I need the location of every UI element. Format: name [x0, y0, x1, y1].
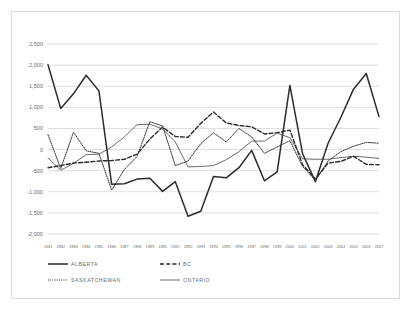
- legend-label-bc[interactable]: BC: [183, 261, 191, 267]
- line-chart[interactable]: 2,5002,0001,5001,0005000-500-1,000-1,500…: [12, 12, 401, 300]
- x-tick-label: 2003: [324, 244, 333, 249]
- chart-legend[interactable]: ALBERTABCSASKATCHEWANONTARIO: [48, 261, 210, 283]
- x-tick-label: 1999: [273, 244, 282, 249]
- y-tick-label: 0: [40, 147, 43, 153]
- x-tick-label: 1994: [209, 244, 218, 249]
- x-tick-label: 2002: [311, 244, 320, 249]
- x-tick-label: 2005: [349, 244, 358, 249]
- x-tick-label: 2001: [298, 244, 307, 249]
- series-line-saskatchewan[interactable]: [48, 122, 379, 190]
- x-tick-label: 1991: [171, 244, 180, 249]
- x-axis-tick-labels: 1981198219831984198519861987198819891990…: [44, 244, 384, 249]
- x-tick-label: 1987: [120, 244, 129, 249]
- x-tick-label: 2007: [375, 244, 384, 249]
- x-tick-label: 2004: [336, 244, 345, 249]
- x-tick-label: 1998: [260, 244, 269, 249]
- y-tick-label: 1,000: [29, 104, 43, 110]
- x-tick-label: 1986: [107, 244, 116, 249]
- x-tick-label: 1985: [95, 244, 104, 249]
- x-tick-label: 2006: [362, 244, 371, 249]
- y-tick-label: -500: [32, 168, 43, 174]
- y-axis-tick-labels: 2,5002,0001,5001,0005000-500-1,000-1,500…: [27, 41, 43, 237]
- x-tick-label: 1982: [56, 244, 65, 249]
- x-tick-label: 1996: [235, 244, 244, 249]
- series-line-bc[interactable]: [48, 112, 379, 179]
- y-tick-label: -1,000: [27, 189, 43, 195]
- series-line-alberta[interactable]: [48, 65, 379, 217]
- x-tick-label: 1997: [247, 244, 256, 249]
- y-tick-label: -2,000: [27, 231, 43, 237]
- x-tick-label: 1992: [184, 244, 193, 249]
- y-tick-label: 2,500: [29, 41, 43, 47]
- x-tick-label: 1989: [146, 244, 155, 249]
- x-tick-label: 1983: [69, 244, 78, 249]
- legend-label-ontario[interactable]: ONTARIO: [183, 277, 210, 283]
- x-tick-label: 1981: [44, 244, 53, 249]
- figure: 2,5002,0001,5001,0005000-500-1,000-1,500…: [0, 0, 411, 310]
- y-tick-label: -1,500: [27, 210, 43, 216]
- legend-label-alberta[interactable]: ALBERTA: [71, 261, 98, 267]
- data-series-group[interactable]: [48, 65, 379, 217]
- legend-label-saskatchewan[interactable]: SASKATCHEWAN: [71, 277, 121, 283]
- x-tick-label: 2000: [286, 244, 295, 249]
- x-tick-label: 1995: [222, 244, 231, 249]
- x-tick-label: 1990: [158, 244, 167, 249]
- y-tick-label: 1,500: [29, 83, 43, 89]
- x-tick-label: 1993: [196, 244, 205, 249]
- x-tick-label: 1988: [133, 244, 142, 249]
- chart-frame: 2,5002,0001,5001,0005000-500-1,000-1,500…: [11, 11, 400, 299]
- y-tick-label: 500: [34, 125, 43, 131]
- x-tick-label: 1984: [82, 244, 91, 249]
- y-tick-label: 2,000: [29, 62, 43, 68]
